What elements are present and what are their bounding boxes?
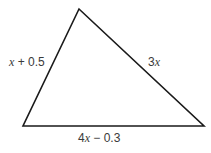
side-label-bottom: 4x − 0.3 bbox=[78, 132, 120, 144]
side-label-left: x + 0.5 bbox=[9, 56, 45, 68]
side-label-right: 3x bbox=[148, 56, 160, 68]
triangle-diagram: x + 0.5 3x 4x − 0.3 bbox=[0, 0, 211, 153]
